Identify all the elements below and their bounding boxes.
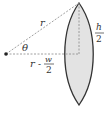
lens-geometry-figure: r θ h 2 r - w 2 bbox=[0, 0, 112, 113]
half-height-denominator: 2 bbox=[96, 34, 102, 44]
angle-label: θ bbox=[22, 42, 28, 53]
center-point bbox=[4, 52, 8, 56]
lens-diagram: r θ h 2 r - w 2 bbox=[0, 0, 112, 113]
offset-minus-sign: - bbox=[38, 59, 41, 69]
radius-label: r bbox=[40, 17, 46, 28]
offset-r-label: r bbox=[30, 58, 36, 69]
half-height-numerator: h bbox=[96, 22, 102, 32]
offset-denominator: 2 bbox=[46, 65, 52, 75]
offset-numerator: w bbox=[45, 55, 52, 64]
